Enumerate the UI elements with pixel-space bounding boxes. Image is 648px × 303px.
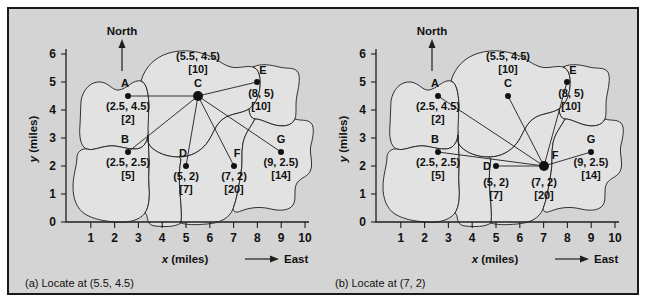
caption-b: (b) Locate at (7, 2) xyxy=(335,277,426,289)
coord-b-C: (5.5, 4.5) xyxy=(486,50,530,62)
north-arrowhead-b xyxy=(429,39,436,48)
north-arrowhead-a xyxy=(119,39,126,48)
caption-a: (a) Locate at (5.5, 4.5) xyxy=(25,277,134,289)
x-tick-4: 4 xyxy=(159,231,166,245)
point-a-C-hub[interactable] xyxy=(193,91,203,101)
y-ticks-a xyxy=(61,54,66,222)
x-tick-1: 1 xyxy=(397,231,404,245)
point-a-G[interactable] xyxy=(278,149,284,155)
weight-a-E: [10] xyxy=(251,100,271,112)
point-a-D[interactable] xyxy=(183,163,189,169)
label-b-G: G xyxy=(587,133,596,145)
point-a-F[interactable] xyxy=(231,163,237,169)
x-tick-6: 6 xyxy=(206,231,213,245)
label-b-E: E xyxy=(569,64,576,76)
x-tick-8: 8 xyxy=(564,231,571,245)
coord-b-E: (8, 5) xyxy=(558,87,584,99)
label-b-C: C xyxy=(504,77,512,89)
weight-b-E: [10] xyxy=(561,100,581,112)
point-a-E[interactable] xyxy=(254,79,260,85)
panel-a: 0 1 2 3 4 5 6 1 2 3 4 5 6 7 8 9 10 xyxy=(9,9,333,293)
y-tick-4: 4 xyxy=(359,103,366,117)
coord-a-C: (5.5, 4.5) xyxy=(176,50,220,62)
y-tick-5: 5 xyxy=(49,75,56,89)
point-b-B[interactable] xyxy=(435,149,441,155)
point-b-C[interactable] xyxy=(505,93,511,99)
label-a-C: C xyxy=(194,77,202,89)
coord-a-F: (7, 2) xyxy=(221,170,247,182)
weight-b-A: [2] xyxy=(431,113,445,125)
x-tick-2: 2 xyxy=(111,231,118,245)
figure-frame: 0 1 2 3 4 5 6 1 2 3 4 5 6 7 8 9 10 xyxy=(7,7,639,295)
point-b-E[interactable] xyxy=(564,79,570,85)
weight-b-D: [7] xyxy=(489,189,503,201)
north-label-b: North xyxy=(417,25,448,37)
point-b-A[interactable] xyxy=(435,93,441,99)
y-tick-2: 2 xyxy=(49,159,56,173)
x-tick-6: 6 xyxy=(516,231,523,245)
x-tick-3: 3 xyxy=(135,231,142,245)
panel-b-svg: 0 1 2 3 4 5 6 1 2 3 4 5 6 7 8 9 10 x (mi… xyxy=(319,9,643,293)
label-a-F: F xyxy=(234,147,241,159)
panel-a-svg: 0 1 2 3 4 5 6 1 2 3 4 5 6 7 8 9 10 xyxy=(9,9,333,293)
weight-a-D: [7] xyxy=(179,183,193,195)
y-tick-4: 4 xyxy=(49,103,56,117)
panel-b: 0 1 2 3 4 5 6 1 2 3 4 5 6 7 8 9 10 x (mi… xyxy=(319,9,643,293)
weight-a-G: [14] xyxy=(271,169,291,181)
coord-a-G: (9, 2.5) xyxy=(264,156,299,168)
weight-a-A: [2] xyxy=(121,113,135,125)
x-tick-7: 7 xyxy=(540,231,547,245)
weight-b-C: [10] xyxy=(498,63,518,75)
x-tick-1: 1 xyxy=(87,231,94,245)
point-b-D[interactable] xyxy=(493,163,499,169)
y-axis-label-b: y (miles) xyxy=(337,115,349,163)
coord-a-D: (5, 2) xyxy=(173,170,199,182)
y-axis-label-a: y (miles) xyxy=(27,115,39,163)
x-tick-3: 3 xyxy=(445,231,452,245)
y-tick-6: 6 xyxy=(49,47,56,61)
north-label-a: North xyxy=(107,25,138,37)
region-a xyxy=(80,81,150,150)
point-b-G[interactable] xyxy=(588,149,594,155)
label-a-E: E xyxy=(259,64,266,76)
coord-a-B: (2.5, 2.5) xyxy=(106,156,150,168)
y-tick-0: 0 xyxy=(359,215,366,229)
x-tick-9: 9 xyxy=(588,231,595,245)
coord-b-G: (9, 2.5) xyxy=(574,156,609,168)
east-arrowhead-a xyxy=(270,256,279,263)
label-a-B: B xyxy=(121,133,129,145)
y-tick-labels-b: 0 1 2 3 4 5 6 xyxy=(359,47,366,229)
y-tick-1: 1 xyxy=(359,187,366,201)
label-a-G: G xyxy=(277,133,286,145)
label-b-F: F xyxy=(552,149,559,161)
y-ticks-b xyxy=(371,54,376,222)
x-tick-2: 2 xyxy=(421,231,428,245)
y-tick-1: 1 xyxy=(49,187,56,201)
y-tick-0: 0 xyxy=(49,215,56,229)
coord-a-E: (8, 5) xyxy=(248,87,274,99)
x-axis-label-b: x (miles) xyxy=(471,253,519,265)
x-tick-7: 7 xyxy=(230,231,237,245)
label-b-A: A xyxy=(431,77,439,89)
label-a-A: A xyxy=(121,77,129,89)
coord-b-B: (2.5, 2.5) xyxy=(416,156,460,168)
y-tick-labels-a: 0 1 2 3 4 5 6 xyxy=(49,47,56,229)
weight-b-G: [14] xyxy=(581,169,601,181)
point-b-F-hub[interactable] xyxy=(539,161,549,171)
coord-a-A: (2.5, 4.5) xyxy=(106,100,150,112)
east-arrowhead-b xyxy=(580,256,589,263)
x-tick-5: 5 xyxy=(493,231,500,245)
label-b-D: D xyxy=(483,160,491,172)
x-axis-label-a: x (miles) xyxy=(161,253,209,265)
x-tick-10: 10 xyxy=(298,231,312,245)
point-a-B[interactable] xyxy=(125,149,131,155)
coord-b-A: (2.5, 4.5) xyxy=(416,100,460,112)
x-tick-8: 8 xyxy=(254,231,261,245)
east-label-b: East xyxy=(594,253,618,265)
coord-b-D: (5, 2) xyxy=(483,176,509,188)
label-a-D: D xyxy=(179,147,187,159)
y-tick-2: 2 xyxy=(359,159,366,173)
point-a-A[interactable] xyxy=(125,93,131,99)
y-tick-6: 6 xyxy=(359,47,366,61)
y-tick-3: 3 xyxy=(49,131,56,145)
